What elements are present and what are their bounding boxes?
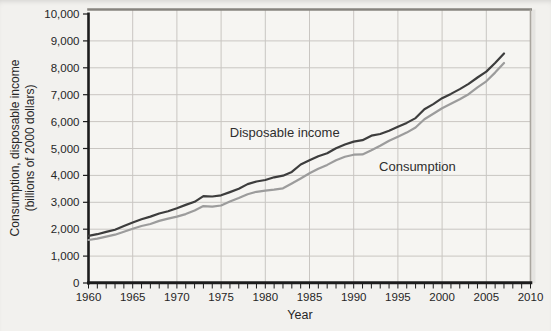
- y-tick-label: 6,000: [51, 116, 80, 128]
- figure-page: 01,0002,0003,0004,0005,0006,0007,0008,00…: [0, 0, 551, 331]
- y-tick-label: 1,000: [51, 250, 80, 262]
- y-axis-title-line-2: (billions of 2000 dollars): [23, 85, 37, 212]
- scan-shadow: [532, 10, 536, 284]
- y-tick-label: 2,000: [51, 223, 80, 235]
- x-tick-label: 1965: [120, 291, 146, 303]
- y-tick-label: 9,000: [51, 35, 80, 47]
- y-tick-label: 4,000: [51, 169, 80, 181]
- y-tick-label: 3,000: [51, 196, 80, 208]
- y-tick-label: 8,000: [51, 62, 80, 74]
- series-label-disposable-income: Disposable income: [230, 125, 340, 140]
- x-tick-label: 1975: [208, 291, 234, 303]
- y-axis-title-line-1: Consumption, disposable income: [8, 59, 22, 236]
- x-tick-label: 2010: [518, 291, 544, 303]
- x-tick-label: 1995: [385, 291, 411, 303]
- x-tick-label: 1985: [297, 291, 323, 303]
- x-tick-label: 1990: [341, 291, 367, 303]
- y-tick-label: 7,000: [51, 89, 80, 101]
- consumption-disposable-income-chart: 01,0002,0003,0004,0005,0006,0007,0008,00…: [0, 0, 551, 331]
- x-axis-ticks: 1960196519701975198019851990199520002005…: [76, 284, 544, 303]
- x-tick-label: 1980: [253, 291, 279, 303]
- y-tick-label: 10,000: [44, 8, 79, 20]
- x-tick-label: 1960: [76, 291, 102, 303]
- y-tick-label: 5,000: [51, 143, 80, 155]
- x-axis-title: Year: [287, 308, 312, 322]
- y-tick-label: 0: [73, 277, 79, 289]
- series-label-consumption: Consumption: [379, 159, 456, 174]
- x-tick-label: 1970: [164, 291, 190, 303]
- y-axis-ticks: 01,0002,0003,0004,0005,0006,0007,0008,00…: [44, 8, 88, 289]
- x-tick-label: 2005: [474, 291, 500, 303]
- x-tick-label: 2000: [429, 291, 455, 303]
